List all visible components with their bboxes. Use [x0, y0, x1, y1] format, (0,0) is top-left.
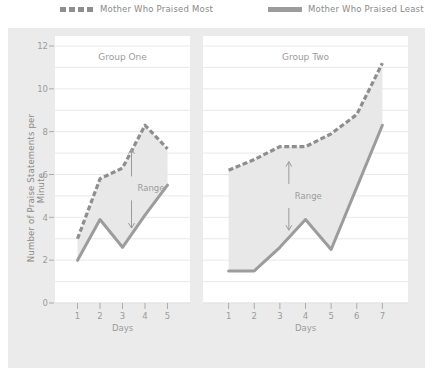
x-axis-tick-label: 1 — [75, 311, 80, 321]
y-axis-tick-label: 0 — [43, 298, 48, 308]
chart-canvas: Number of Praise Statements per Minute 0… — [8, 28, 425, 368]
panel-title: Group One — [98, 52, 147, 62]
y-axis-tick-label: 6 — [43, 170, 48, 180]
legend-item-praised-least: Mother Who Praised Least — [268, 4, 424, 14]
y-axis-tick-label: 10 — [37, 84, 48, 94]
x-axis-tick-label: 1 — [226, 311, 231, 321]
dashed-line-swatch-icon — [60, 7, 94, 12]
range-annotation-label: Range — [138, 183, 165, 193]
x-axis-tick-label: 4 — [142, 311, 147, 321]
x-axis-tick-label: 2 — [97, 311, 102, 321]
x-axis-tick-label: 6 — [354, 311, 359, 321]
solid-line-swatch-icon — [268, 7, 302, 12]
legend-item-praised-most: Mother Who Praised Most — [60, 4, 213, 14]
y-axis-tick-label: 2 — [43, 255, 48, 265]
legend-label-praised-most: Mother Who Praised Most — [100, 4, 213, 14]
x-axis-tick-label: 2 — [252, 311, 257, 321]
x-axis-tick-label: 7 — [380, 311, 385, 321]
chart-plot-svg: 024681012Group One12345DaysRangeGroup Tw… — [8, 28, 425, 368]
x-axis-tick-label: 5 — [328, 311, 333, 321]
x-axis-tick-label: 4 — [303, 311, 308, 321]
x-axis-tick-label: 3 — [277, 311, 282, 321]
legend-label-praised-least: Mother Who Praised Least — [308, 4, 424, 14]
x-axis-title: Days — [112, 323, 134, 333]
x-axis-tick-label: 3 — [120, 311, 125, 321]
y-axis-tick-label: 8 — [43, 127, 48, 137]
panel-title: Group Two — [282, 52, 330, 62]
y-axis-tick-label: 4 — [43, 213, 48, 223]
chart-legend: Mother Who Praised Most Mother Who Prais… — [0, 0, 433, 26]
x-axis-title: Days — [295, 323, 317, 333]
x-axis-tick-label: 5 — [165, 311, 170, 321]
y-axis-tick-label: 12 — [37, 41, 48, 51]
range-annotation-label: Range — [295, 191, 322, 201]
chart-root: Mother Who Praised Most Mother Who Prais… — [0, 0, 433, 375]
